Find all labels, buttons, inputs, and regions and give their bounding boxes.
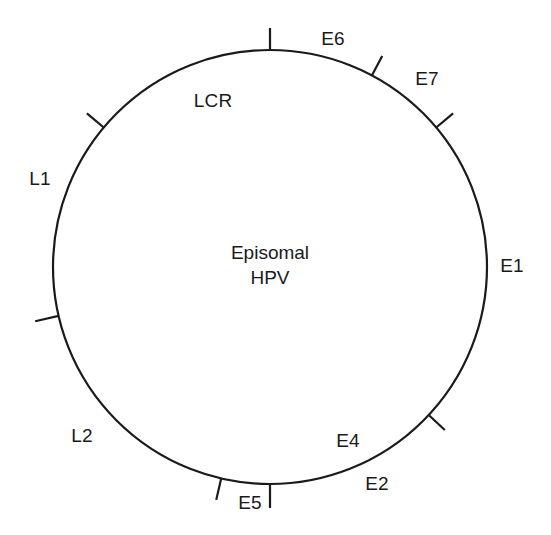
tick-left — [35, 316, 58, 321]
center-line-2: HPV — [231, 265, 309, 290]
figure-canvas: Episomal HPV E6E7E1E2E4E5L2L1LCR — [0, 0, 551, 535]
gene-label-e2: E2 — [365, 473, 389, 495]
gene-label-l1: L1 — [29, 168, 51, 190]
tick-upper-right — [372, 56, 382, 75]
gene-label-e7: E7 — [415, 68, 439, 90]
tick-upper-left — [87, 113, 104, 127]
center-line-1: Episomal — [231, 240, 309, 265]
gene-label-e6: E6 — [321, 28, 345, 50]
tick-lower-right — [429, 415, 445, 430]
gene-label-lcr: LCR — [194, 90, 233, 112]
center-annotation: Episomal HPV — [231, 240, 309, 290]
tick-right-upper — [436, 113, 453, 127]
gene-label-e5: E5 — [238, 492, 262, 514]
gene-label-e4: E4 — [336, 430, 360, 452]
tick-bottom-left — [216, 478, 221, 499]
gene-label-e1: E1 — [500, 255, 524, 277]
gene-label-l2: L2 — [71, 425, 93, 447]
